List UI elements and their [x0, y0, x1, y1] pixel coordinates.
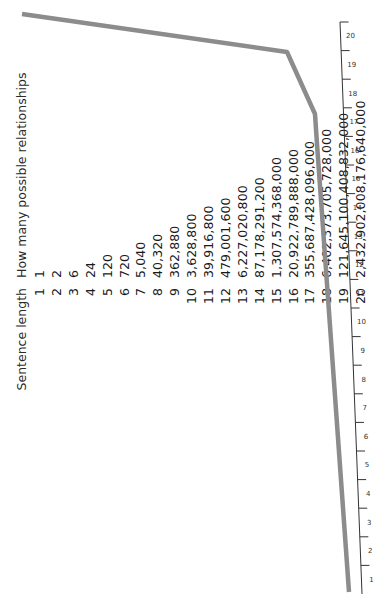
axis-tick-label: 3: [367, 519, 371, 527]
axis-tick-label: 14: [353, 204, 362, 212]
axis-tick-label: 17: [349, 118, 358, 126]
axis-tick-label: 1: [369, 576, 373, 584]
axis-tick-label: 12: [355, 261, 364, 269]
axis-tick-label: 18: [348, 90, 357, 98]
axis-tick-label: 15: [352, 175, 361, 183]
axis-tick-label: 20: [346, 32, 355, 40]
axis-tick-label: 7: [363, 404, 367, 412]
rotated-chart-stage: Sentence length How many possible relati…: [0, 0, 390, 614]
axis-tick-label: 8: [362, 376, 366, 384]
axis-tick-label: 4: [366, 490, 371, 498]
axis-tick-label: 10: [357, 318, 366, 326]
axis-tick-label: 11: [356, 290, 365, 298]
axis-tick-label: 9: [360, 347, 364, 355]
axis-tick-label: 16: [350, 147, 359, 155]
axis-tick-label: 6: [364, 433, 369, 441]
axis-tick-label: 19: [347, 61, 356, 69]
axis-tick-label: 13: [354, 233, 363, 241]
axis-tick-label: 2: [368, 547, 372, 555]
data-line: [22, 14, 349, 592]
line-chart: 1234567891011121314151617181920: [0, 0, 390, 614]
axis-tick-label: 5: [365, 461, 369, 469]
